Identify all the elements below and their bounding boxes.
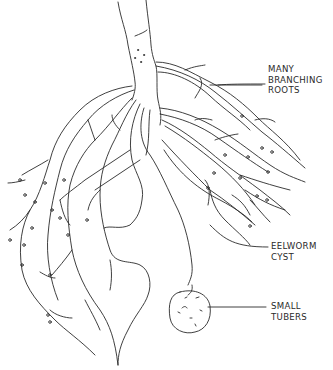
left-roots: [8, 86, 192, 365]
label-many-branching-roots: MANY BRANCHING ROOTS: [268, 64, 323, 96]
label-line: CYST: [271, 252, 317, 263]
label-line: SMALL: [271, 301, 307, 312]
leader-lines: [208, 85, 268, 307]
label-line: EELWORM: [271, 241, 317, 252]
root-diagram: MANY BRANCHING ROOTS EELWORM CYST SMALL …: [0, 0, 333, 370]
label-small-tubers: SMALL TUBERS: [271, 301, 307, 322]
label-line: TUBERS: [271, 312, 307, 323]
tuber: [169, 285, 210, 333]
label-line: MANY: [268, 64, 323, 75]
label-line: BRANCHING: [268, 75, 323, 86]
leader-eelworm-cyst: [210, 225, 268, 247]
label-eelworm-cyst: EELWORM CYST: [271, 241, 317, 262]
label-line: ROOTS: [268, 85, 323, 96]
